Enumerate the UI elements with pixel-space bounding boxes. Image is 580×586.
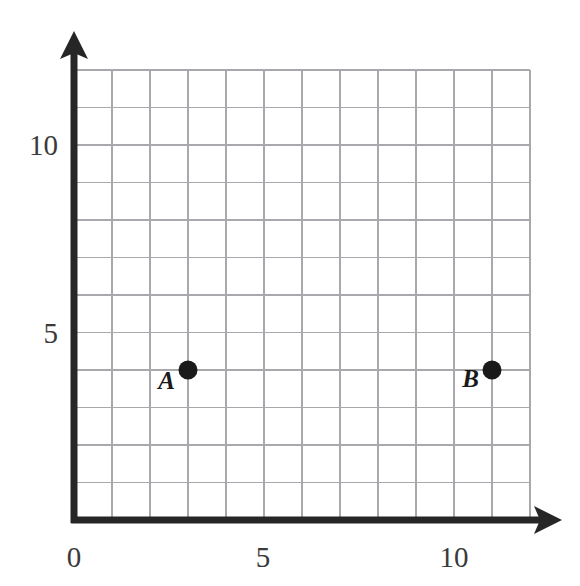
point-label-b: B bbox=[462, 366, 479, 391]
plot-canvas bbox=[0, 0, 580, 586]
y-tick-label-5: 5 bbox=[44, 318, 59, 347]
y-tick-label-10: 10 bbox=[29, 131, 58, 160]
x-tick-label-5: 5 bbox=[256, 543, 271, 572]
point-label-a: A bbox=[158, 368, 175, 393]
x-tick-label-10: 10 bbox=[440, 543, 469, 572]
grid-lines bbox=[74, 70, 530, 520]
data-point-a bbox=[179, 361, 198, 380]
x-tick-label-0: 0 bbox=[67, 543, 82, 572]
axes bbox=[60, 31, 562, 534]
coordinate-plane: 10 5 0 5 10 A B bbox=[0, 0, 580, 586]
data-point-b bbox=[483, 361, 502, 380]
